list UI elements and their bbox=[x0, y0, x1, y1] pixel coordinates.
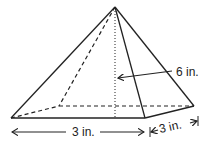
base-width-arrow-right bbox=[190, 121, 197, 123]
base-length-label: 3 in. bbox=[72, 125, 95, 139]
base-width-arrow-left bbox=[151, 130, 158, 132]
height-arrow bbox=[118, 71, 172, 78]
pyramid-diagram: 6 in. 3 in. 3 in. bbox=[0, 0, 214, 150]
hidden-edges bbox=[11, 7, 194, 118]
height-label: 6 in. bbox=[176, 65, 199, 79]
visible-edges bbox=[11, 7, 194, 118]
base-width-label: 3 in. bbox=[158, 118, 183, 136]
